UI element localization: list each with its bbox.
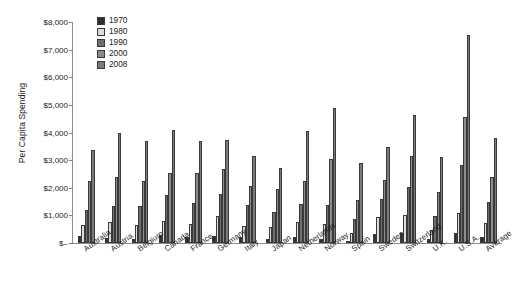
legend-swatch-icon xyxy=(97,28,105,36)
y-tick-mark xyxy=(69,160,73,161)
legend-label: 1980 xyxy=(109,27,127,36)
y-tick-label: $2,000 xyxy=(24,183,68,192)
bar-group xyxy=(341,22,368,243)
legend-item: 1970 xyxy=(97,16,127,25)
plot-area xyxy=(73,22,502,243)
bar-group xyxy=(127,22,154,243)
bar-group xyxy=(448,22,475,243)
bar xyxy=(494,138,497,243)
legend-label: 2000 xyxy=(109,49,127,58)
legend-swatch-icon xyxy=(97,61,105,69)
bar xyxy=(252,156,255,243)
y-tick-label: $7,000 xyxy=(24,45,68,54)
y-tick-mark xyxy=(69,50,73,51)
y-tick-label: $– xyxy=(24,239,68,248)
bar xyxy=(467,35,470,243)
legend-swatch-icon xyxy=(97,39,105,47)
y-axis-tick-labels: $–$1,000$2,000$3,000$4,000$5,000$6,000$7… xyxy=(24,16,68,248)
bar xyxy=(145,141,148,243)
bar xyxy=(359,163,362,243)
bar-group xyxy=(314,22,341,243)
y-tick-mark xyxy=(69,22,73,23)
bar-group xyxy=(73,22,100,243)
bar xyxy=(386,147,389,243)
bar-group xyxy=(234,22,261,243)
legend-label: 1990 xyxy=(109,38,127,47)
y-tick-mark xyxy=(69,188,73,189)
y-tick-label: $5,000 xyxy=(24,100,68,109)
legend-label: 2008 xyxy=(109,60,127,69)
y-tick-mark xyxy=(69,77,73,78)
y-tick-label: $4,000 xyxy=(24,128,68,137)
legend-item: 2008 xyxy=(97,60,127,69)
bar xyxy=(91,150,94,243)
legend-swatch-icon xyxy=(97,50,105,58)
y-tick-mark xyxy=(69,215,73,216)
bar-group xyxy=(207,22,234,243)
legend-swatch-icon xyxy=(97,17,105,25)
legend-item: 1990 xyxy=(97,38,127,47)
bar xyxy=(279,168,282,243)
y-tick-label: $3,000 xyxy=(24,156,68,165)
bar-group xyxy=(288,22,315,243)
legend-item: 2000 xyxy=(97,49,127,58)
bar-group xyxy=(475,22,502,243)
y-tick-label: $1,000 xyxy=(24,211,68,220)
bar xyxy=(118,133,121,243)
x-axis-tick-labels: AustraliaAustriaBelgiumCanadaFranceGerma… xyxy=(73,246,502,306)
y-tick-mark xyxy=(69,243,73,244)
bar xyxy=(199,141,202,243)
y-tick-label: $8,000 xyxy=(24,18,68,27)
bar-group xyxy=(422,22,449,243)
y-tick-mark xyxy=(69,105,73,106)
y-tick-label: $6,000 xyxy=(24,73,68,82)
chart-legend: 19701980199020002008 xyxy=(97,16,127,69)
legend-label: 1970 xyxy=(109,16,127,25)
bar xyxy=(172,130,175,243)
bar xyxy=(225,140,228,243)
bar-group xyxy=(368,22,395,243)
legend-item: 1980 xyxy=(97,27,127,36)
bar xyxy=(413,115,416,243)
bar-group xyxy=(395,22,422,243)
bar-group xyxy=(261,22,288,243)
bar xyxy=(306,131,309,243)
y-tick-mark xyxy=(69,133,73,134)
bar-group xyxy=(180,22,207,243)
bar-group xyxy=(153,22,180,243)
